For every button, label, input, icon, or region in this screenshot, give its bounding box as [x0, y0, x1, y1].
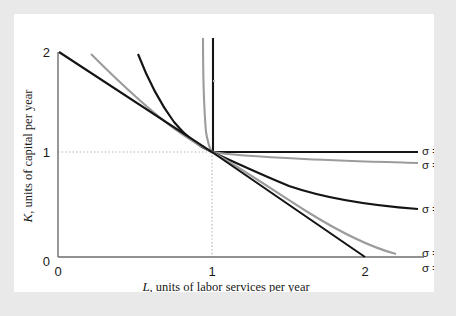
isoquant-chart: 2 1 0 0 1 2 L, units of labor services p… [14, 14, 434, 292]
curve-sigma-0.1 [203, 38, 418, 163]
curve-sigma-0 [213, 38, 418, 152]
legend-label-sigma-5: σ = 5 [422, 247, 434, 259]
y-axis-title: K, units of capital per year [20, 89, 35, 224]
scan-speck [213, 80, 215, 82]
x-axis-title-rest: , units of labor services per year [150, 280, 311, 292]
x-tick-label-0: 0 [54, 264, 61, 279]
legend-label-sigma-infinity: σ = ∞ [422, 262, 434, 274]
y-tick-label-1: 1 [43, 145, 50, 160]
y-tick-label-0: 0 [43, 254, 50, 269]
legend-label-sigma-1: σ = 1 [422, 203, 434, 215]
y-tick-label-2: 2 [43, 45, 50, 60]
legend-label-sigma-0: σ = 0 [422, 145, 434, 157]
x-tick-label-1: 1 [208, 264, 215, 279]
x-axis-title: L, units of labor services per year [141, 279, 310, 292]
legend-label-sigma-0.1: σ = 0.1 [422, 159, 434, 171]
x-axis-title-symbol: L [141, 279, 149, 292]
y-axis-title-rest: , units of capital per year [21, 89, 35, 214]
figure-card: 2 1 0 0 1 2 L, units of labor services p… [14, 14, 434, 292]
x-tick-label-2: 2 [361, 264, 368, 279]
curve-sigma-5 [91, 54, 396, 254]
figure-frame: 2 1 0 0 1 2 L, units of labor services p… [0, 0, 456, 316]
